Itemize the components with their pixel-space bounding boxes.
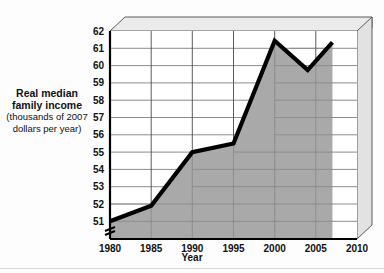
chart-3d-top-face [110,17,372,31]
y-tick-label: 55 [93,147,105,158]
chart-figure: Real median family income (thousands of … [0,0,384,273]
y-tick-label: 51 [93,216,105,227]
y-tick-label: 61 [93,43,105,54]
y-tick-label: 57 [93,112,105,123]
y-tick-label: 60 [93,60,105,71]
y-tick-label: 58 [93,95,105,106]
y-axis-title-units: (thousands of 2007 dollars per year) [4,111,90,134]
y-tick-label: 54 [93,164,105,175]
y-tick-label: 62 [93,26,105,37]
y-tick-label: 59 [93,77,105,88]
bottom-divider [0,268,384,269]
y-tick-labels: 51 52 53 54 55 56 57 58 59 60 61 62 [93,26,105,227]
chart-canvas: 51 52 53 54 55 56 57 58 59 60 61 62 1980… [0,0,384,273]
chart-3d-right-face [357,17,372,239]
y-tick-label: 53 [93,181,105,192]
y-tick-label: 56 [93,129,105,140]
y-axis-title: Real median family income (thousands of … [4,88,90,134]
y-tick-label: 52 [93,199,105,210]
y-axis-title-main: Real median family income [4,88,90,111]
x-axis-title: Year [0,252,384,263]
